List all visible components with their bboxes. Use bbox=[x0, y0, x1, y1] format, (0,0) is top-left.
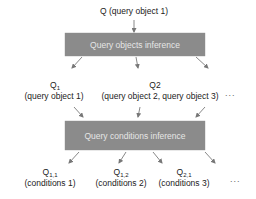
q11-desc: (conditions 1) bbox=[18, 178, 82, 188]
query-objects-inference-label: Query objects inference bbox=[90, 40, 180, 50]
query-conditions-inference-label: Query conditions inference bbox=[84, 131, 185, 141]
ellipsis-level2: ... bbox=[230, 174, 241, 184]
query-conditions-inference-box: Query conditions inference bbox=[65, 121, 205, 150]
q21-desc: (conditions 3) bbox=[152, 178, 216, 188]
ellipsis-level1: ... bbox=[225, 88, 236, 98]
q2-desc: (query object 2, query object 3) bbox=[100, 91, 220, 101]
q1-desc: (query object 1) bbox=[6, 91, 102, 101]
q12-desc: (conditions 2) bbox=[89, 178, 153, 188]
query-objects-inference-box: Query objects inference bbox=[65, 33, 205, 56]
q2-label: Q2 bbox=[140, 80, 170, 90]
top-input-label: Q (query object 1) bbox=[78, 6, 190, 16]
